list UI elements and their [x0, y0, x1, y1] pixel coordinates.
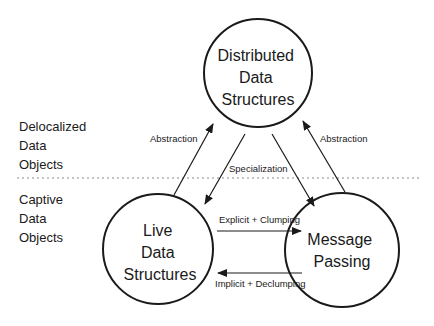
svg-text:Message Passing: Message Passing: [307, 231, 376, 270]
region-label-captive: Captive Data Objects: [19, 192, 67, 245]
edge-label-abstraction-right: Abstraction: [320, 133, 368, 144]
region-label-delocalized: Delocalized Data Objects: [19, 119, 90, 172]
edge-label-explicit-clumping: Explicit + Clumping: [219, 214, 300, 225]
edge-label-implicit-declumping: Implicit + Declumping: [215, 278, 306, 289]
svg-text:Distributed Data S: Distributed Data Structures: [218, 47, 299, 108]
node-distributed-data-structures: Distributed Data Structures: [204, 19, 312, 127]
edge-message-to-distributed: [303, 121, 345, 192]
svg-text:Live Data Structur: Live Data Structures: [124, 222, 197, 283]
diagram-canvas: Delocalized Data Objects Captive Data Ob…: [0, 0, 434, 326]
node-live-data-structures: Live Data Structures: [103, 194, 213, 304]
node-message-passing: Message Passing: [285, 193, 399, 307]
edge-label-abstraction-left: Abstraction: [150, 133, 198, 144]
edge-label-specialization: Specialization: [229, 163, 288, 174]
